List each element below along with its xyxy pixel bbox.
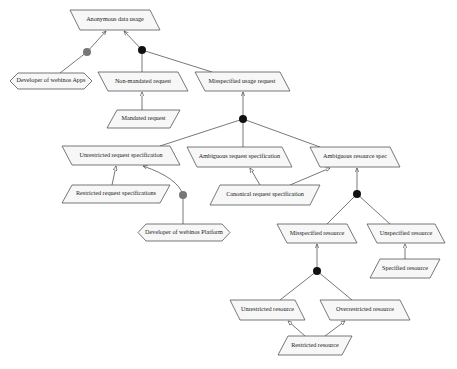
and-refinement-dot — [353, 190, 361, 198]
edge-ambiguousres-junction — [243, 119, 320, 147]
node-label: Developer of webinos Apps — [17, 76, 86, 83]
edge-misspecusage-junction — [142, 50, 212, 72]
node-label: Specified resource — [382, 264, 428, 271]
edge-restrictedres-unrestrictedres — [288, 321, 305, 336]
node-label: Unrestricted request specification — [79, 151, 162, 158]
edge-unrestrictedres-junction — [280, 271, 317, 300]
and-refinement-dot — [313, 267, 321, 275]
edge-restrictedspec-unrestrictedspec — [112, 166, 116, 185]
node-dev-apps[interactable]: Developer of webinos Apps — [10, 73, 92, 89]
edge-canonical-ambiguousspec — [250, 168, 260, 185]
node-label: Unspecified resource — [380, 229, 433, 236]
node-anonymous[interactable]: Anonymous data usage — [70, 10, 160, 30]
node-label: Developer of webinos Platform — [145, 228, 223, 235]
node-label: Anonymous data usage — [86, 15, 144, 22]
node-unspecified-resource[interactable]: Unspecified resource — [367, 224, 445, 243]
node-label: Restricted request specifications — [76, 189, 157, 196]
and-refinement-dot — [239, 115, 247, 123]
node-label: Restricted resource — [291, 341, 339, 348]
edge-overrestrictedres-junction — [317, 271, 352, 300]
obstacle-diagram: Anonymous data usage Developer of webino… — [0, 0, 457, 369]
node-specified-resource[interactable]: Specified resource — [370, 259, 440, 278]
node-label: Misspecified resource — [290, 229, 345, 236]
node-non-mandated[interactable]: Non-mandated request — [98, 72, 188, 91]
node-ambiguous-spec[interactable]: Ambiguous request specification — [187, 147, 292, 167]
node-restricted-spec[interactable]: Restricted request specifications — [62, 185, 170, 203]
edge-junction-anonymous — [87, 31, 106, 52]
edge-restrictedres-overrestrictedres — [325, 321, 345, 336]
node-dev-platform[interactable]: Developer of webinos Platform — [138, 224, 230, 241]
node-mandated[interactable]: Mandated request — [107, 110, 180, 128]
edge-misspecres-junction — [327, 194, 357, 224]
node-label: Canonical request specification — [226, 190, 304, 197]
node-label: Mandated request — [121, 114, 165, 121]
node-label: Unrestricted resource — [241, 305, 294, 312]
node-label: Ambiguous request specification — [199, 152, 280, 159]
node-overrestricted-resource[interactable]: Overrestricted resource — [320, 300, 410, 320]
node-restricted-resource[interactable]: Restricted resource — [278, 336, 352, 355]
node-misspecified-resource[interactable]: Misspecified resource — [277, 224, 357, 243]
responsibility-junction-dot — [83, 48, 91, 56]
node-canonical-spec[interactable]: Canonical request specification — [210, 185, 320, 205]
responsibility-junction-dot — [179, 191, 187, 199]
node-misspecified-usage[interactable]: Misspecified usage request — [195, 72, 290, 91]
node-unrestricted-resource[interactable]: Unrestricted resource — [230, 300, 305, 320]
node-label: Non-mandated request — [115, 77, 171, 84]
node-unrestricted-spec[interactable]: Unrestricted request specification — [62, 146, 180, 165]
node-label: Misspecified usage request — [208, 77, 275, 84]
node-label: Overrestricted resource — [336, 305, 394, 312]
node-label: Ambiguous resource spec — [323, 152, 387, 159]
edge-canonical-ambiguousres — [290, 168, 330, 185]
edge-unspecres-junction — [357, 194, 390, 224]
edge-devapps-junction — [60, 52, 87, 73]
node-ambiguous-resource[interactable]: Ambiguous resource spec — [310, 147, 400, 167]
and-refinement-dot — [138, 46, 146, 54]
